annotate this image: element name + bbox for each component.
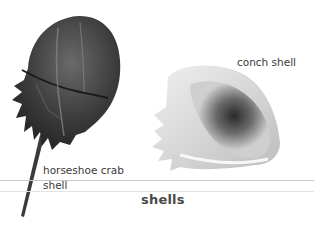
horseshoe-crab-shell-image: [0, 0, 150, 229]
conch-shell-label: conch shell: [237, 56, 296, 68]
section-title: shells: [141, 192, 185, 207]
divider-top: [0, 180, 314, 181]
horseshoe-crab-label-line1: horseshoe crab: [43, 164, 124, 176]
conch-shell-image: [150, 55, 285, 180]
